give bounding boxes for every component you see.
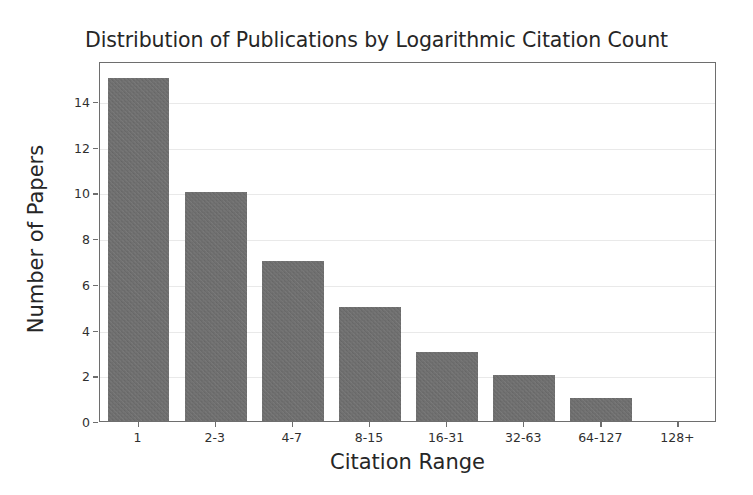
y-tick-label: 12 bbox=[56, 140, 90, 155]
y-tick-mark bbox=[93, 193, 98, 194]
x-tick-label: 8-15 bbox=[355, 430, 383, 445]
bar bbox=[416, 352, 478, 421]
y-tick-label: 10 bbox=[56, 186, 90, 201]
bar bbox=[339, 307, 401, 421]
bar bbox=[570, 398, 632, 421]
y-tick-label: 14 bbox=[56, 95, 90, 110]
chart-figure: Distribution of Publications by Logarith… bbox=[0, 0, 753, 495]
y-tick-mark bbox=[93, 285, 98, 286]
x-axis-label: Citation Range bbox=[99, 450, 716, 474]
y-tick-mark bbox=[93, 331, 98, 332]
y-axis-label: Number of Papers bbox=[22, 0, 50, 495]
x-tick-mark bbox=[677, 422, 678, 427]
y-axis-label-text: Number of Papers bbox=[24, 144, 48, 332]
x-tick-mark bbox=[292, 422, 293, 427]
x-tick-label: 4-7 bbox=[282, 430, 302, 445]
y-tick-label: 6 bbox=[56, 277, 90, 292]
x-tick-mark bbox=[446, 422, 447, 427]
x-tick-mark bbox=[138, 422, 139, 427]
x-tick-label: 128+ bbox=[660, 430, 694, 445]
bar bbox=[185, 192, 247, 421]
x-tick-label: 16-31 bbox=[428, 430, 464, 445]
y-tick-label: 2 bbox=[56, 369, 90, 384]
x-tick-label: 64-127 bbox=[578, 430, 622, 445]
y-tick-mark bbox=[93, 422, 98, 423]
x-tick-mark bbox=[369, 422, 370, 427]
bar bbox=[493, 375, 555, 421]
y-tick-label: 4 bbox=[56, 323, 90, 338]
gridline bbox=[100, 149, 715, 150]
x-tick-mark bbox=[523, 422, 524, 427]
x-tick-label: 32-63 bbox=[505, 430, 541, 445]
gridline bbox=[100, 103, 715, 104]
x-tick-mark bbox=[600, 422, 601, 427]
x-tick-label: 1 bbox=[134, 430, 142, 445]
y-tick-label: 8 bbox=[56, 232, 90, 247]
bar bbox=[108, 78, 170, 421]
bar bbox=[262, 261, 324, 421]
chart-title: Distribution of Publications by Logarith… bbox=[0, 28, 753, 52]
y-tick-mark bbox=[93, 376, 98, 377]
y-tick-label: 0 bbox=[56, 415, 90, 430]
y-tick-mark bbox=[93, 148, 98, 149]
y-tick-mark bbox=[93, 239, 98, 240]
x-tick-label: 2-3 bbox=[204, 430, 224, 445]
plot-area bbox=[99, 62, 716, 422]
y-tick-mark bbox=[93, 102, 98, 103]
x-tick-mark bbox=[215, 422, 216, 427]
